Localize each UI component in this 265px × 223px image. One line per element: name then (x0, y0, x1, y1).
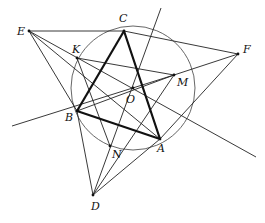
side-bc (77, 31, 124, 111)
segment-bd (77, 111, 93, 195)
point-o (132, 87, 135, 90)
point-e (28, 30, 31, 33)
segment-eb (29, 31, 77, 111)
segment-cf (124, 31, 238, 54)
label-c: C (119, 12, 128, 25)
segment-ea (29, 31, 160, 139)
point-m (173, 74, 176, 77)
label-a: A (156, 142, 165, 155)
point-d (92, 194, 95, 197)
label-n: N (111, 148, 122, 161)
points (28, 30, 240, 197)
label-b: B (64, 111, 73, 124)
segment-km (77, 58, 174, 75)
line-2 (29, 31, 256, 157)
point-a (159, 138, 162, 141)
label-e: E (16, 25, 25, 38)
point-c (123, 30, 126, 33)
point-b (76, 110, 79, 113)
label-o: O (126, 93, 135, 106)
point-k (76, 57, 79, 60)
geometry-diagram: ABCDEFKMNO (0, 0, 265, 223)
point-labels: ABCDEFKMNO (16, 12, 251, 213)
construction-lines (29, 31, 238, 195)
label-f: F (242, 43, 251, 56)
point-f (237, 53, 240, 56)
label-k: K (71, 43, 81, 56)
label-d: D (90, 200, 100, 213)
point-n (109, 145, 112, 148)
label-m: M (176, 76, 189, 89)
side-ab (77, 111, 160, 139)
